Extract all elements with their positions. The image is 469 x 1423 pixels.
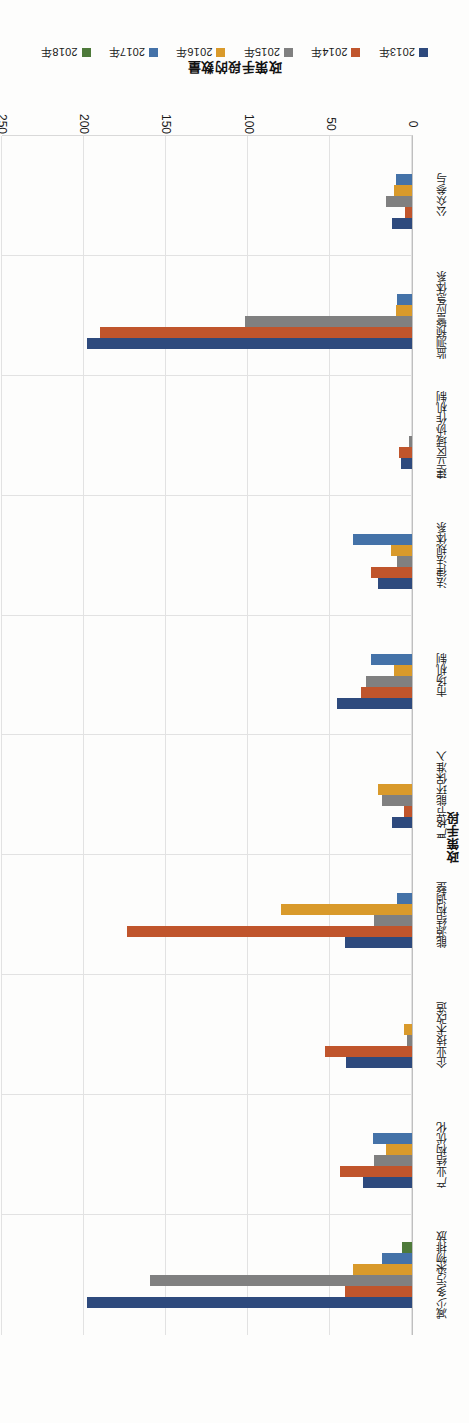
bar-group <box>2 496 412 616</box>
bar-slot <box>2 305 412 316</box>
bar-slot <box>2 414 412 425</box>
bar[interactable] <box>386 1144 412 1155</box>
bar[interactable] <box>397 556 412 567</box>
bar-groups <box>2 136 412 1335</box>
bar[interactable] <box>404 1024 412 1035</box>
legend-item[interactable]: 2018年 <box>41 45 90 61</box>
bar-slot <box>2 926 412 937</box>
value-tick-label: 200 <box>77 114 91 134</box>
bar-slot <box>2 1264 412 1275</box>
bar-slot <box>2 1035 412 1046</box>
bar-slot <box>2 218 412 229</box>
bar[interactable] <box>87 338 412 349</box>
bar-slot <box>2 294 412 305</box>
legend-item[interactable]: 2015年 <box>244 45 293 61</box>
bar-slot <box>2 447 412 458</box>
bar[interactable] <box>87 1297 412 1308</box>
category-tick-label: 监测预警应急体系 <box>415 255 469 375</box>
bar[interactable] <box>392 218 412 229</box>
bar[interactable] <box>382 795 412 806</box>
bar-slot <box>2 196 412 207</box>
bar-slot <box>2 1144 412 1155</box>
bar-slot <box>2 545 412 556</box>
bar[interactable] <box>337 698 412 709</box>
bar[interactable] <box>325 1046 412 1057</box>
bar-slot <box>2 1024 412 1035</box>
bar[interactable] <box>396 305 412 316</box>
x-axis-title: 政策手段 <box>444 811 463 863</box>
bar[interactable] <box>394 665 412 676</box>
bar[interactable] <box>281 904 412 915</box>
bar[interactable] <box>353 534 412 545</box>
bar[interactable] <box>378 784 412 795</box>
category-axis-labels: 减少多污染物排放产业结构优化企业技术改造能源结构调整严格节能环保准入市场机制法律… <box>415 135 469 1335</box>
bar[interactable] <box>340 1166 412 1177</box>
bar[interactable] <box>363 1177 412 1188</box>
category-tick-text: 市场机制 <box>434 653 450 697</box>
bar[interactable] <box>366 676 412 687</box>
bar-slot <box>2 806 412 817</box>
bar[interactable] <box>371 654 412 665</box>
bar-slot <box>2 1177 412 1188</box>
bar[interactable] <box>150 1275 412 1286</box>
bar-slot <box>2 795 412 806</box>
bar-slot <box>2 1297 412 1308</box>
bar[interactable] <box>386 196 412 207</box>
bar-slot <box>2 1122 412 1133</box>
legend-item[interactable]: 2017年 <box>109 45 158 61</box>
bar-slot <box>2 784 412 795</box>
bar-group <box>2 616 412 736</box>
bar[interactable] <box>405 207 412 218</box>
bar[interactable] <box>397 294 412 305</box>
legend-item[interactable]: 2016年 <box>176 45 225 61</box>
bar-group <box>2 1095 412 1215</box>
bar-slot <box>2 567 412 578</box>
bar[interactable] <box>402 1242 412 1253</box>
bar-slot <box>2 523 412 534</box>
bar[interactable] <box>345 1286 412 1297</box>
bar[interactable] <box>371 567 412 578</box>
bar-slot <box>2 904 412 915</box>
bar[interactable] <box>392 817 412 828</box>
bar[interactable] <box>404 806 412 817</box>
bar[interactable] <box>378 578 412 589</box>
bar[interactable] <box>396 174 412 185</box>
bar[interactable] <box>399 447 412 458</box>
bar[interactable] <box>391 545 412 556</box>
bar[interactable] <box>374 915 412 926</box>
bar-slot <box>2 1155 412 1166</box>
bar[interactable] <box>401 458 412 469</box>
bar[interactable] <box>382 1253 412 1264</box>
bar-slot <box>2 327 412 338</box>
bar[interactable] <box>346 1057 412 1068</box>
bar-slot <box>2 915 412 926</box>
value-tick-label: 100 <box>242 114 256 134</box>
bar[interactable] <box>407 1035 412 1046</box>
legend-swatch-icon <box>419 49 428 58</box>
category-tick-label: 减少多污染物排放 <box>415 1215 469 1335</box>
legend-label: 2015年 <box>244 45 280 61</box>
bar-slot <box>2 458 412 469</box>
legend-item[interactable]: 2014年 <box>311 45 360 61</box>
bar[interactable] <box>345 937 412 948</box>
bar-slot <box>2 1286 412 1297</box>
bar-group <box>2 975 412 1095</box>
bar-chart-figure: 减少多污染物排放产业结构优化企业技术改造能源结构调整严格节能环保准入市场机制法律… <box>0 0 469 1423</box>
legend: 2013年2014年2015年2016年2017年2018年 <box>0 13 469 93</box>
bar[interactable] <box>409 436 412 447</box>
bar-slot <box>2 665 412 676</box>
bar[interactable] <box>394 185 412 196</box>
bar[interactable] <box>373 1133 412 1144</box>
bar[interactable] <box>374 1155 412 1166</box>
category-tick-text: 公众参与 <box>434 173 450 217</box>
bar[interactable] <box>353 1264 412 1275</box>
bar[interactable] <box>245 316 412 327</box>
category-tick-text: 法律法规体系 <box>434 522 450 588</box>
bar[interactable] <box>100 327 412 338</box>
bar[interactable] <box>361 687 412 698</box>
bar-slot <box>2 207 412 218</box>
legend-item[interactable]: 2013年 <box>378 45 427 61</box>
bar[interactable] <box>127 926 412 937</box>
category-tick-label: 产业结构优化 <box>415 1095 469 1215</box>
bar[interactable] <box>397 893 412 904</box>
